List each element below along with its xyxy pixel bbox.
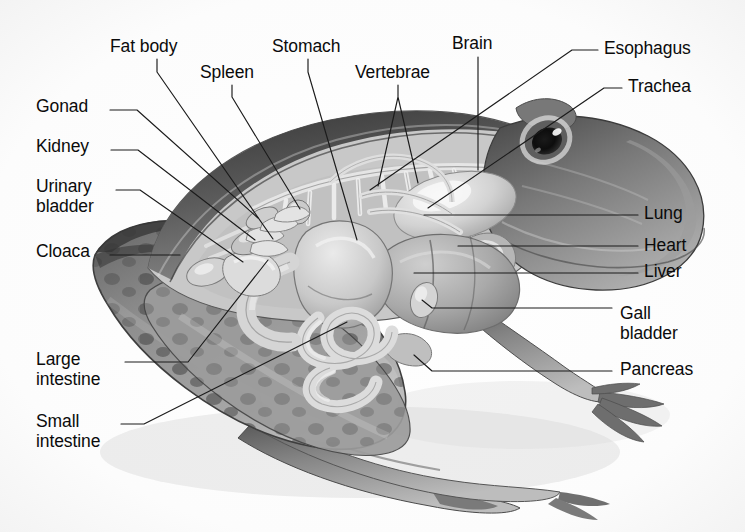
label-heart: Heart [644, 235, 686, 255]
label-esophagus: Esophagus [604, 38, 691, 58]
label-liver: Liver [644, 261, 681, 281]
label-brain: Brain [452, 33, 492, 53]
label-urinary-bladder: Urinary bladder [36, 176, 94, 216]
label-pancreas: Pancreas [620, 359, 693, 379]
label-gall-bladder: Gall bladder [620, 303, 678, 343]
label-gonad: Gonad [36, 96, 88, 116]
label-fat-body: Fat body [110, 36, 177, 56]
label-cloaca: Cloaca [36, 241, 90, 261]
label-large-intestine: Large intestine [36, 349, 100, 389]
label-vertebrae: Vertebrae [355, 62, 430, 82]
label-small-intestine: Small intestine [36, 411, 100, 451]
label-trachea: Trachea [628, 76, 691, 96]
label-stomach: Stomach [272, 36, 340, 56]
frog-anatomy-figure: Fat bodySpleenStomachVertebraeBrainEsoph… [0, 0, 745, 532]
label-lung: Lung [644, 203, 683, 223]
label-kidney: Kidney [36, 136, 89, 156]
label-spleen: Spleen [200, 62, 254, 82]
